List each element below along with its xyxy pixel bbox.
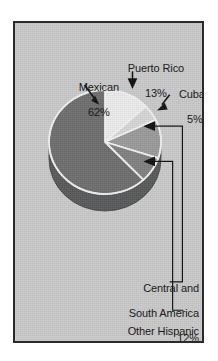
slice-label-cuban-value: 5% (187, 113, 203, 125)
slice-label-other-hispanic-name: Other Hispanic (128, 325, 199, 337)
slice-label-csa-name-line1: Central and (143, 282, 199, 294)
slice-label-cuban-name: Cuban (179, 88, 204, 100)
chart-figure: Mexican 62% Puerto Rico 13% Cuban 5% Cen… (13, 21, 204, 343)
slice-label-cuban: Cuban 5% (161, 75, 204, 138)
slice-label-puerto-rico-name: Puerto Rico (128, 62, 184, 74)
slice-label-other-hispanic: Other Hispanic 8% (77, 312, 199, 343)
csa-leader-line (143, 121, 182, 282)
